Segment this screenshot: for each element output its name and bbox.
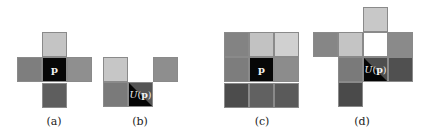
- neighbor-pixel-cell: [338, 82, 363, 107]
- cell-label: U(p): [364, 58, 387, 81]
- boundary-pixel-cell: U(p): [363, 57, 388, 82]
- neighbor-pixel-cell: [388, 57, 413, 82]
- neighbor-pixel-cell: [388, 32, 413, 57]
- neighbor-pixel-cell: [224, 83, 249, 108]
- panel-caption: (a): [46, 115, 61, 128]
- neighbor-pixel-cell: [338, 57, 363, 82]
- neighbor-pixel-cell: [249, 83, 274, 108]
- neighbor-pixel-cell: [274, 83, 299, 108]
- neighbor-pixel-cell: [338, 32, 363, 57]
- neighbor-pixel-cell: [274, 32, 299, 57]
- panel-caption: (b): [132, 115, 148, 128]
- neighbor-pixel-cell: [42, 83, 67, 108]
- neighbor-pixel-cell: [224, 57, 249, 82]
- center-pixel-cell: p: [249, 57, 274, 82]
- neighbor-pixel-cell: [249, 32, 274, 57]
- center-pixel-cell: p: [42, 57, 67, 82]
- panel-caption: (d): [354, 115, 370, 128]
- neighbor-pixel-cell: [224, 32, 249, 57]
- neighbor-pixel-cell: [67, 57, 92, 82]
- neighbor-pixel-cell: [363, 7, 388, 32]
- boundary-pixel-cell: U(p): [128, 82, 153, 107]
- cell-label: p: [250, 58, 273, 81]
- neighbor-pixel-cell: [313, 32, 338, 57]
- neighbor-pixel-cell: [274, 57, 299, 82]
- neighbor-pixel-cell: [103, 57, 128, 82]
- panel-caption: (c): [255, 115, 270, 128]
- cell-label: U(p): [129, 83, 152, 106]
- neighbor-pixel-cell: [103, 82, 128, 107]
- neighbor-pixel-cell: [42, 32, 67, 57]
- neighbor-pixel-cell: [153, 57, 178, 82]
- cell-label: p: [43, 58, 66, 81]
- neighbor-pixel-cell: [363, 32, 388, 57]
- neighbor-pixel-cell: [17, 57, 42, 82]
